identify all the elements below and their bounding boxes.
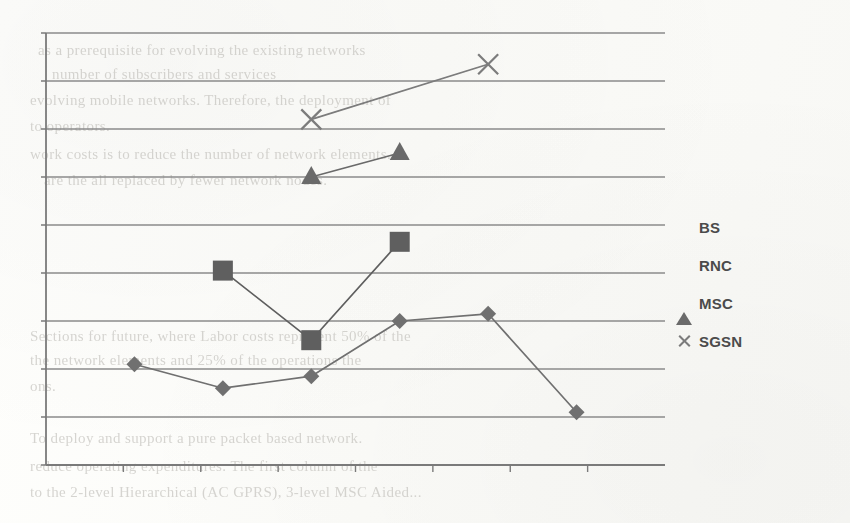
diamond-marker-icon — [676, 219, 692, 235]
square-marker-icon — [676, 257, 692, 273]
cross-marker-icon — [676, 333, 692, 349]
legend-item-msc[interactable]: MSC — [676, 284, 796, 322]
legend-label: SGSN — [699, 333, 742, 350]
chart-gridlines — [46, 33, 665, 417]
chart-series-lines — [134, 64, 576, 412]
legend-item-sgsn[interactable]: SGSN — [676, 322, 796, 360]
legend-label: RNC — [699, 257, 732, 274]
legend-item-rnc[interactable]: RNC — [676, 246, 796, 284]
chart-legend: BS RNC MSC SGSN — [676, 208, 796, 360]
triangle-marker-icon — [676, 295, 692, 311]
legend-label: MSC — [699, 295, 733, 312]
legend-label: BS — [699, 219, 720, 236]
chart-series-markers — [126, 54, 584, 420]
legend-item-bs[interactable]: BS — [676, 208, 796, 246]
